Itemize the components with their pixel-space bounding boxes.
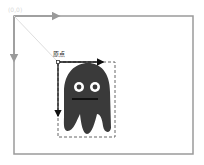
ghost-character xyxy=(64,63,111,134)
element-origin-handle xyxy=(57,61,60,64)
outer-origin-label: (0,0) xyxy=(8,6,22,13)
offset-line xyxy=(14,16,57,61)
coordinate-diagram: (0,0) 原点 xyxy=(0,0,204,165)
diagram-svg xyxy=(0,0,204,165)
mouth xyxy=(72,98,98,100)
element-origin-label: 原点 xyxy=(53,50,65,57)
